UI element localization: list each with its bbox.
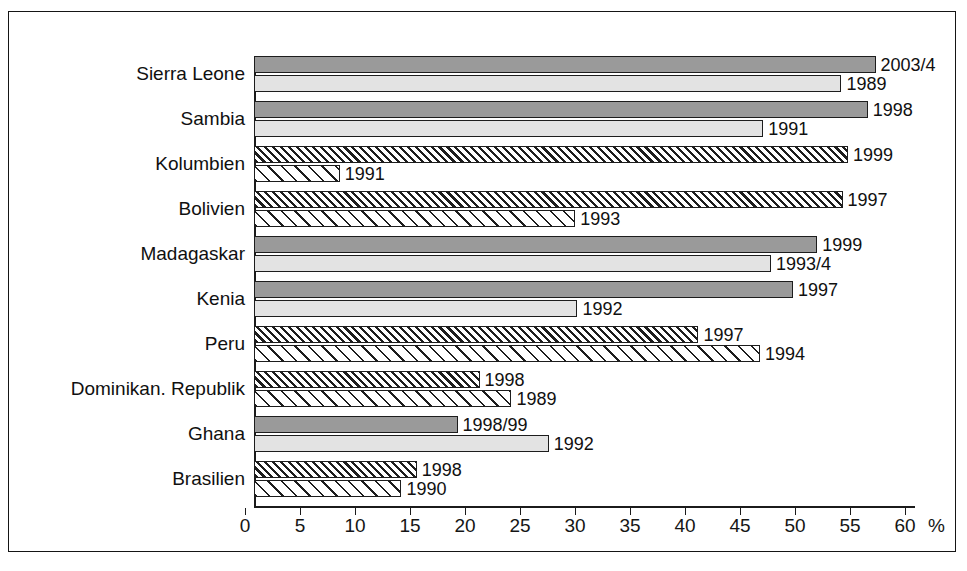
- bar-value-label: 1998: [873, 100, 913, 121]
- chart-frame-border: Sierra LeoneSambiaKolumbienBolivienMadag…: [8, 11, 956, 552]
- bar-recent: [254, 461, 417, 478]
- category-label: Madagaskar: [140, 243, 245, 265]
- x-tick-label: 55: [830, 515, 870, 537]
- x-tick-mark: [630, 508, 631, 515]
- bar-value-label: 1997: [798, 280, 838, 301]
- x-tick-label: 45: [720, 515, 760, 537]
- x-tick-mark: [850, 508, 851, 515]
- bar-recent: [254, 326, 698, 343]
- x-tick-label: 20: [445, 515, 485, 537]
- x-tick-mark: [685, 508, 686, 515]
- bar-value-label: 1993: [580, 209, 620, 230]
- x-tick-label: 10: [335, 515, 375, 537]
- bar-earlier: [254, 255, 771, 272]
- bar-recent: [254, 56, 876, 73]
- x-tick-label: 50: [775, 515, 815, 537]
- bar-recent: [254, 416, 458, 433]
- x-tick-mark: [740, 508, 741, 515]
- bar-value-label: 1999: [822, 235, 862, 256]
- bar-value-label: 1992: [554, 434, 594, 455]
- bar-earlier: [254, 480, 401, 497]
- category-label: Bolivien: [178, 198, 245, 220]
- bar-value-label: 1998: [422, 460, 462, 481]
- x-tick-label: 60: [885, 515, 925, 537]
- bar-earlier: [254, 75, 841, 92]
- x-tick-label: 15: [390, 515, 430, 537]
- bar-value-label: 1989: [846, 74, 886, 95]
- bar-value-label: 1999: [853, 145, 893, 166]
- bar-value-label: 1997: [848, 190, 888, 211]
- bar-earlier: [254, 210, 575, 227]
- bar-recent: [254, 101, 868, 118]
- bar-earlier: [254, 345, 760, 362]
- x-tick-label: 40: [665, 515, 705, 537]
- bar-earlier: [254, 435, 549, 452]
- x-tick-mark: [245, 508, 246, 515]
- chart-screenshot: Sierra LeoneSambiaKolumbienBolivienMadag…: [0, 0, 967, 571]
- x-tick-label: 30: [555, 515, 595, 537]
- x-tick-mark: [355, 508, 356, 515]
- plot-area: 2003/41989199819911999199119971993199919…: [254, 56, 914, 506]
- x-tick-mark: [520, 508, 521, 515]
- bar-recent: [254, 281, 793, 298]
- bar-value-label: 1993/4: [776, 254, 831, 275]
- x-tick-label: 0: [225, 515, 265, 537]
- x-tick-mark: [300, 508, 301, 515]
- bar-earlier: [254, 165, 340, 182]
- bar-recent: [254, 146, 848, 163]
- category-label: Ghana: [188, 423, 245, 445]
- bar-value-label: 2003/4: [881, 55, 936, 76]
- x-tick-mark: [575, 508, 576, 515]
- x-axis-unit-label: %: [928, 515, 945, 537]
- x-tick-mark: [465, 508, 466, 515]
- x-tick-label: 25: [500, 515, 540, 537]
- x-tick-label: 35: [610, 515, 650, 537]
- x-tick-mark: [905, 508, 906, 515]
- bar-value-label: 1992: [582, 299, 622, 320]
- x-tick-label: 5: [280, 515, 320, 537]
- bar-recent: [254, 191, 843, 208]
- bar-value-label: 1998/99: [463, 415, 528, 436]
- category-label: Sambia: [181, 108, 245, 130]
- bar-recent: [254, 236, 817, 253]
- bar-value-label: 1991: [768, 119, 808, 140]
- bar-value-label: 1994: [765, 344, 805, 365]
- bar-earlier: [254, 390, 511, 407]
- bar-value-label: 1990: [406, 479, 446, 500]
- bar-earlier: [254, 120, 763, 137]
- bar-value-label: 1991: [345, 164, 385, 185]
- x-tick-mark: [795, 508, 796, 515]
- category-label: Brasilien: [172, 468, 245, 490]
- bar-value-label: 1989: [516, 389, 556, 410]
- x-axis-line: [254, 506, 915, 508]
- category-axis-labels: Sierra LeoneSambiaKolumbienBolivienMadag…: [9, 56, 245, 506]
- category-label: Kenia: [196, 288, 245, 310]
- category-label: Sierra Leone: [136, 63, 245, 85]
- category-label: Peru: [205, 333, 245, 355]
- bar-value-label: 1998: [485, 370, 525, 391]
- bar-recent: [254, 371, 480, 388]
- bar-earlier: [254, 300, 577, 317]
- bar-value-label: 1997: [703, 325, 743, 346]
- category-label: Kolumbien: [155, 153, 245, 175]
- x-tick-mark: [410, 508, 411, 515]
- category-label: Dominikan. Republik: [71, 378, 245, 400]
